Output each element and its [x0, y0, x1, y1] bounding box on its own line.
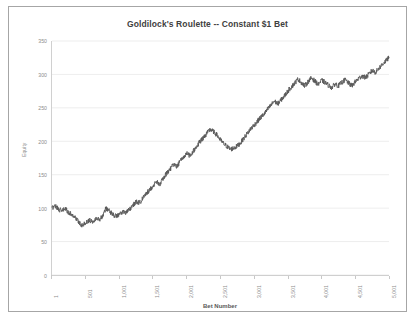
x-tick-label: 1: [53, 295, 59, 298]
x-tick-mark: [51, 276, 52, 279]
x-tick-mark: [321, 276, 322, 279]
x-tick-mark: [355, 276, 356, 279]
x-tick-label: 5,001: [391, 285, 397, 298]
chart-title: Goldilock's Roulette -- Constant $1 Bet: [9, 19, 406, 29]
x-tick-label: 3,501: [290, 285, 296, 298]
x-tick-label: 4,001: [323, 285, 329, 298]
x-tick-label: 4,501: [357, 285, 363, 298]
x-tick-mark: [152, 276, 153, 279]
x-tick-mark: [119, 276, 120, 279]
y-axis-title: Equity: [21, 143, 27, 157]
gridlines: [52, 41, 389, 275]
x-tick-label: 3,001: [256, 285, 262, 298]
chart-frame: Goldilock's Roulette -- Constant $1 Bet …: [8, 6, 407, 312]
y-tick-label: 350: [23, 38, 47, 44]
x-tick-mark: [186, 276, 187, 279]
x-tick-label: 1,001: [121, 285, 127, 298]
plot-area: [51, 41, 389, 276]
x-tick-label: 2,001: [188, 285, 194, 298]
y-tick-label: 300: [23, 72, 47, 78]
x-tick-mark: [220, 276, 221, 279]
x-tick-label: 501: [87, 289, 93, 298]
y-tick-label: 150: [23, 172, 47, 178]
y-tick-label: 250: [23, 105, 47, 111]
x-tick-label: 2,501: [222, 285, 228, 298]
y-tick-label: 100: [23, 206, 47, 212]
y-tick-label: 50: [23, 239, 47, 245]
x-tick-mark: [288, 276, 289, 279]
x-tick-mark: [254, 276, 255, 279]
y-tick-label: 0: [23, 273, 47, 279]
x-tick-mark: [85, 276, 86, 279]
equity-curve: [52, 41, 389, 275]
x-tick-label: 1,501: [154, 285, 160, 298]
x-axis-title: Bet Number: [51, 303, 389, 309]
x-tick-mark: [389, 276, 390, 279]
